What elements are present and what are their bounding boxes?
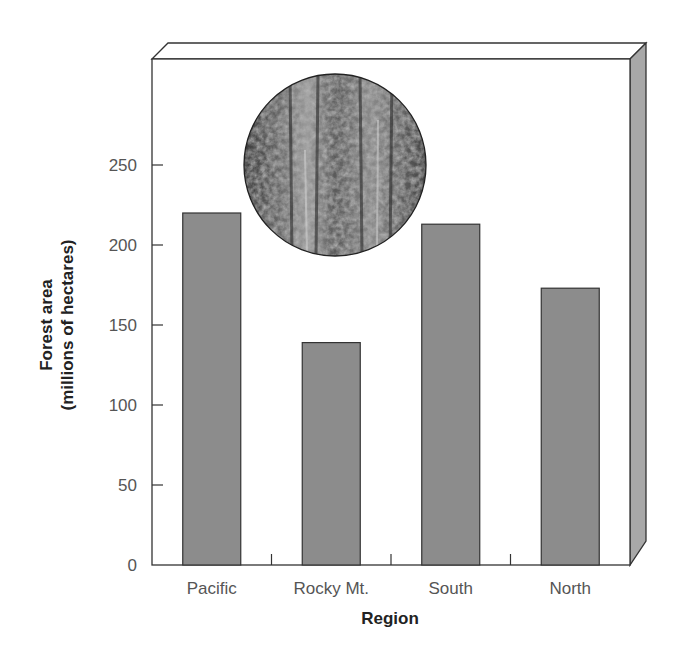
y-tick-label: 50 [118,476,137,495]
bar-north [541,288,599,565]
x-tick-label: Pacific [187,579,238,598]
x-tick-label: North [549,579,591,598]
y-tick-label: 100 [109,396,137,415]
svg-text:(millions of hectares): (millions of hectares) [58,240,77,411]
y-tick-label: 250 [109,156,137,175]
frame-top-face [152,43,646,59]
forest-area-chart: 050100150200250 PacificRocky Mt.SouthNor… [0,0,680,651]
y-tick-label: 200 [109,236,137,255]
y-axis-title: Forest area (millions of hectares) [37,240,77,411]
bar-south [422,224,480,565]
x-tick-label: Rocky Mt. [293,579,369,598]
y-tick-label: 150 [109,316,137,335]
x-axis-title: Region [361,609,419,628]
bar-rocky-mt [302,343,360,565]
y-tick-label: 0 [128,556,137,575]
svg-text:Forest area: Forest area [37,279,56,371]
x-tick-label: South [429,579,473,598]
forest-photo [244,74,426,256]
bar-pacific [183,213,241,565]
frame-right-face [630,43,646,565]
